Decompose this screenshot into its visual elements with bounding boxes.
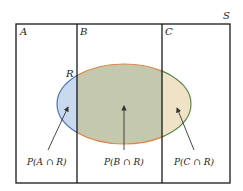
label-a: A [19, 26, 27, 37]
label-r: R [65, 68, 74, 79]
label-b: B [79, 26, 87, 37]
label-s: S [223, 10, 230, 21]
venn-diagram: S A B C R P(A ∩ R) P(B ∩ R) P(C ∩ R) [0, 0, 243, 191]
label-p-b-intersect-r: P(B ∩ R) [103, 157, 144, 167]
label-p-c-intersect-r: P(C ∩ R) [173, 157, 214, 167]
label-c: C [165, 26, 173, 37]
label-p-a-intersect-r: P(A ∩ R) [26, 157, 67, 167]
arrow-a-intersect-r [48, 107, 68, 150]
